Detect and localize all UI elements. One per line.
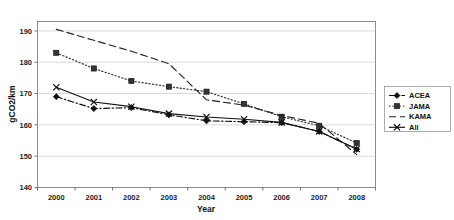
y-tick-label: 160 [19,121,32,130]
data-point-marker [354,140,359,145]
x-tick-label: 2005 [236,193,253,202]
data-point-marker [394,104,399,109]
legend: ACEAJAMAKAMAAll [385,87,451,133]
y-tick-label: 140 [19,183,32,192]
legend-label: All [409,123,419,132]
data-point-marker [129,78,134,83]
data-point-marker [91,66,96,71]
x-tick-label: 2006 [273,193,290,202]
x-tick-label: 2004 [198,193,216,202]
data-point-marker [54,50,59,55]
x-tick-label: 2002 [123,193,140,202]
data-point-marker [204,89,209,94]
x-tick-label: 2001 [85,193,102,202]
x-tick-label: 2003 [161,193,178,202]
data-point-marker [166,84,171,89]
chart-canvas: 140150160170180190 200020012002200320042… [0,0,454,220]
co2-emissions-line-chart: 140150160170180190 200020012002200320042… [0,0,454,220]
x-axis-title: Year [197,204,216,214]
legend-label: ACEA [409,91,431,100]
data-point-marker [317,123,322,128]
y-tick-label: 170 [19,89,32,98]
plot-area-border [38,22,376,188]
x-tick-label: 2008 [348,193,365,202]
x-tick-label: 2007 [311,193,328,202]
legend-label: KAMA [409,112,432,121]
y-tick-label: 180 [19,58,32,67]
x-axis-tick-labels: 200020012002200320042005200620072008 [48,193,365,202]
y-tick-label: 190 [19,27,32,36]
x-tick-label: 2000 [48,193,65,202]
legend-label: JAMA [409,102,431,111]
y-axis-title: gCO2/km [7,85,17,123]
y-tick-label: 150 [19,152,32,161]
